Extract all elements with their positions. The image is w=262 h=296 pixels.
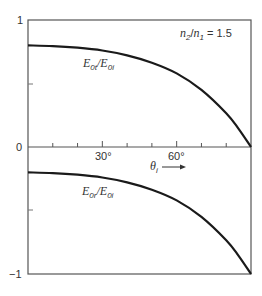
reflection-curve-label: E0r/E0i	[82, 185, 113, 200]
x-axis-label-theta: θi	[150, 160, 158, 175]
x-tick-label-30: 30°	[95, 151, 112, 162]
transmission-curve-label: E0t/E0i	[83, 57, 114, 72]
y-tick-label-neg1: −1	[9, 269, 22, 280]
x-axis-ticks	[53, 141, 226, 147]
chart-plot-area	[0, 0, 262, 296]
reflection-curve	[28, 172, 251, 274]
index-ratio-annotation: n2/n1 = 1.5	[180, 27, 232, 42]
y-tick-label-1: 1	[17, 15, 23, 26]
theta-arrow	[162, 165, 186, 170]
transmission-curve	[28, 45, 251, 147]
y-tick-label-0: 0	[16, 142, 22, 153]
x-tick-label-60: 60°	[168, 151, 185, 162]
